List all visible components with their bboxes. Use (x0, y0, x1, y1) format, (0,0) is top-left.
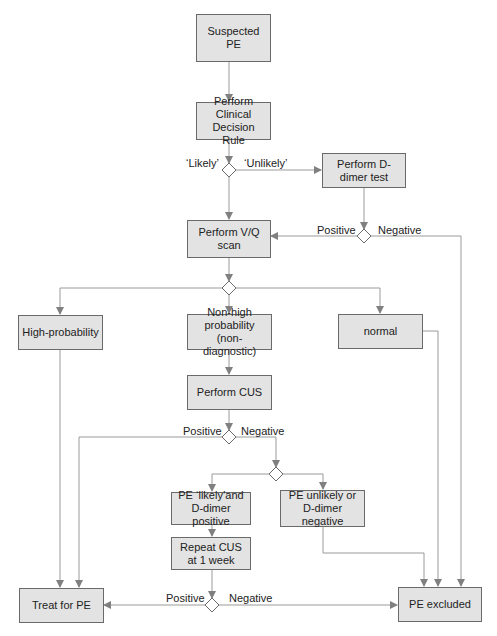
node-repeat-cus: Repeat CUS at 1 week (171, 537, 251, 570)
decision-diamond-vq (222, 281, 236, 295)
decision-diamond-cus (222, 430, 236, 444)
node-pe-unlikely-ddimer-negative: PE unlikely or D-dimer negative (280, 490, 365, 527)
node-pe-likely-ddimer-positive: PE ‘likely’and D-dimer positive (171, 492, 251, 525)
node-ddimer-test: Perform D-dimer test (322, 153, 406, 188)
decision-diamond-repeat (205, 598, 219, 612)
label-ddimer-positive: Positive (317, 224, 356, 236)
node-clinical-decision-rule: Perform Clinical Decision Rule (196, 102, 271, 140)
decision-diamond-ddimer (357, 229, 371, 243)
node-normal: normal (338, 314, 423, 349)
node-suspected-pe: Suspected PE (196, 14, 271, 62)
node-vq-scan: Perform V/Q scan (187, 220, 271, 258)
pe-diagnostic-flowchart: Suspected PE Perform Clinical Decision R… (0, 0, 497, 636)
label-repeat-negative: Negative (229, 592, 272, 604)
node-perform-cus: Perform CUS (187, 375, 272, 410)
label-unlikely: ‘Unlikely’ (244, 157, 287, 169)
label-ddimer-negative: Negative (378, 224, 421, 236)
node-non-high-probability: Non-high probability (non-diagnostic) (187, 314, 272, 350)
label-cus-negative: Negative (241, 425, 284, 437)
decision-diamond-clinical (222, 163, 236, 177)
label-likely: ‘Likely’ (186, 157, 219, 169)
label-cus-positive: Positive (183, 425, 222, 437)
decision-diamond-pretest (269, 467, 283, 481)
node-treat-for-pe: Treat for PE (19, 588, 104, 623)
label-repeat-positive: Positive (166, 592, 205, 604)
node-high-probability: High-probability (18, 315, 103, 350)
node-pe-excluded: PE excluded (398, 587, 482, 622)
